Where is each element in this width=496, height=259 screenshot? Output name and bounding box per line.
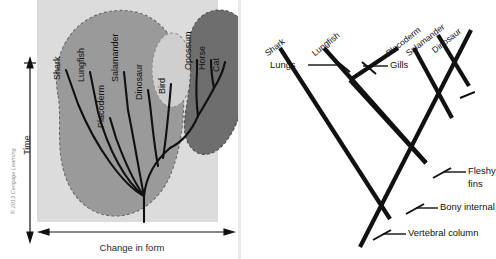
x-axis-label: Change in form (52, 242, 212, 253)
tree-label-opossum: Opossum (183, 31, 193, 70)
character-label-gills: Gills (390, 59, 408, 70)
character-label-fins: fins (468, 178, 483, 189)
tick-fleshy-fins (433, 168, 451, 178)
tree-label-salamander: Salamander (110, 33, 120, 82)
character-label-vertebral-column: Vertebral column (408, 227, 478, 238)
tick-bony-internal (406, 204, 424, 214)
tree-label-lungfish: Lungfish (76, 48, 86, 82)
y-axis-label: Time (22, 117, 32, 173)
tree-label-bird: Bird (157, 78, 167, 94)
change-axis (39, 229, 234, 235)
left-panel-evolutionary-tree: Shark Lungfish Placoderm Salamander Dino… (0, 0, 238, 259)
right-panel-cladogram: Shark Lungfish Placoderm Salamander Dino… (238, 0, 475, 259)
character-label-lungs: Lungs (270, 59, 296, 70)
tick-vertebral-column (373, 230, 391, 240)
tick-dinosaur-node (460, 92, 475, 98)
tree-label-cat: Cat (211, 58, 221, 72)
copyright-notice: © 2013 Cengage Learning (10, 142, 16, 214)
clade-branch-shark (280, 48, 390, 219)
tree-label-placoderm: Placoderm (96, 85, 106, 128)
tree-label-dinosaur: Dinosaur (134, 64, 144, 100)
tree-label-horse: Horse (197, 46, 207, 70)
character-label-bony-internal: Bony internal (440, 201, 495, 212)
character-label-fleshy: Fleshy (468, 165, 496, 176)
tree-label-shark: Shark (52, 56, 62, 80)
clade-branch-gills-node (350, 80, 426, 163)
